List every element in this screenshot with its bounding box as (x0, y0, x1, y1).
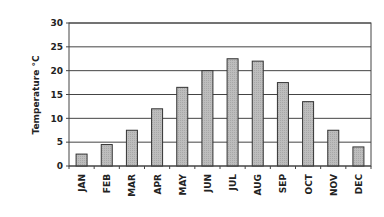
x-tick-label: AUG (253, 174, 263, 195)
bar-aug (252, 61, 263, 166)
y-tick-label: 10 (50, 114, 63, 124)
bar-dec (353, 147, 364, 166)
x-tick-label: DEC (354, 174, 364, 195)
bar-apr (152, 109, 163, 166)
y-tick-label: 30 (50, 18, 63, 28)
bar-feb (101, 145, 112, 166)
x-tick-label: JUN (203, 174, 213, 193)
bar-jan (76, 154, 87, 166)
x-axis-ticks: JANFEBMARAPRMAYJUNJULAUGSEPOCTNOVDEC (69, 166, 371, 197)
y-tick-label: 0 (57, 161, 63, 171)
x-tick-label: OCT (304, 173, 314, 194)
y-tick-label: 20 (50, 66, 63, 76)
bar-jun (202, 71, 213, 166)
bar-mar (126, 130, 137, 166)
x-tick-label: MAY (178, 174, 188, 196)
x-tick-label: SEP (278, 174, 288, 194)
bar-nov (328, 130, 339, 166)
y-axis-ticks: 051015202530 (50, 18, 69, 171)
y-tick-label: 25 (50, 42, 63, 52)
x-tick-label: JAN (77, 174, 87, 193)
bar-sep (277, 83, 288, 166)
y-axis-title: Temperature °C (31, 55, 41, 134)
x-tick-label: MAR (127, 174, 137, 197)
x-tick-label: APR (153, 174, 163, 195)
bar-jul (227, 59, 238, 166)
temperature-bar-chart: 051015202530 JANFEBMARAPRMAYJUNJULAUGSEP… (0, 0, 384, 217)
y-tick-label: 15 (50, 90, 63, 100)
x-tick-label: FEB (102, 174, 112, 193)
x-tick-label: JUL (228, 174, 238, 192)
bar-may (177, 87, 188, 166)
x-tick-label: NOV (329, 174, 339, 196)
y-tick-label: 5 (57, 137, 63, 147)
bar-oct (303, 102, 314, 166)
